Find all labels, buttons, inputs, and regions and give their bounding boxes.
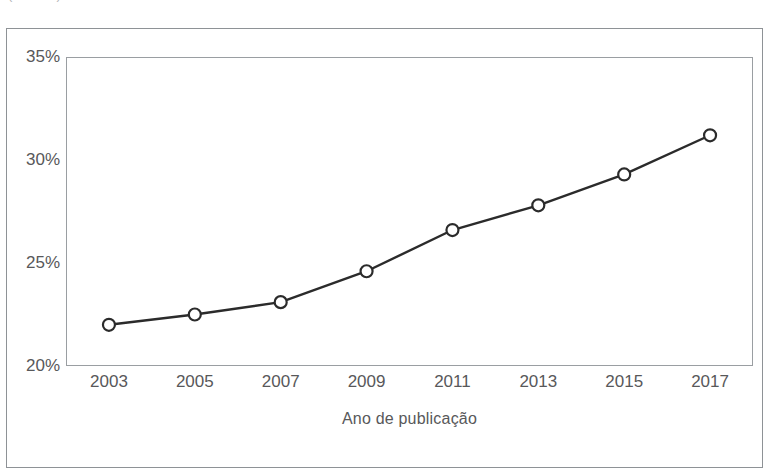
x-axis-tick-label: 2003 (90, 372, 128, 392)
x-axis-title: Ano de publicação (66, 410, 753, 428)
y-axis-tick-label: 35% (6, 47, 60, 67)
x-axis-tick-label: 2007 (262, 372, 300, 392)
data-point (618, 168, 630, 180)
x-axis-tick-label: 2015 (605, 372, 643, 392)
x-axis-tick-label: 2013 (519, 372, 557, 392)
data-point (361, 265, 373, 277)
data-point (103, 319, 115, 331)
data-markers (103, 129, 716, 331)
y-axis-tick-label: 30% (6, 150, 60, 170)
line-chart: 20%25%30%35% 200320052007200920112013201… (0, 0, 768, 472)
data-point (704, 129, 716, 141)
data-point (189, 309, 201, 321)
plot-svg (66, 57, 753, 366)
y-axis-labels: 20%25%30%35% (0, 0, 60, 472)
x-axis-tick-label: 2017 (691, 372, 729, 392)
x-axis-tick-label: 2011 (434, 372, 471, 392)
data-point (446, 224, 458, 236)
data-point (275, 296, 287, 308)
x-axis-tick-label: 2009 (348, 372, 386, 392)
x-axis-tick-label: 2005 (176, 372, 214, 392)
x-axis-labels: 20032005200720092011201320152017 (0, 372, 768, 400)
data-line (109, 135, 710, 325)
data-point (532, 199, 544, 211)
y-axis-tick-label: 25% (6, 253, 60, 273)
